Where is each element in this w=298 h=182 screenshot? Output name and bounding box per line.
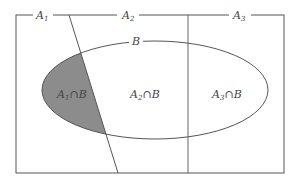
region-label-a1-b: A1∩B	[56, 88, 87, 102]
label-b: B	[131, 35, 140, 48]
venn-diagram: A1 A2 A3 B A1∩B A2∩B A3∩B	[0, 0, 298, 182]
region-label-a2-b: A2∩B	[129, 88, 160, 102]
region-label-a3-b: A3∩B	[211, 88, 242, 102]
